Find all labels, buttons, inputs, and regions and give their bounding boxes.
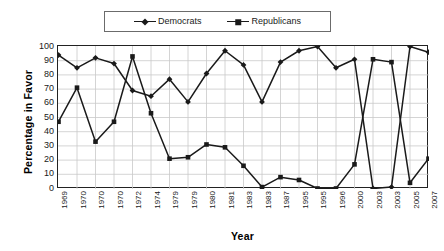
legend-item-democrats: Democrats: [134, 17, 202, 26]
x-tick-label: 2003: [394, 191, 402, 209]
y-axis-title: Percentage in Favor: [22, 47, 34, 197]
x-tick-label: 1970: [117, 191, 125, 209]
y-tick-label: 10: [44, 169, 54, 178]
x-tick-label: 1995: [302, 191, 310, 209]
x-tick-label: 1979: [172, 191, 180, 209]
chart-legend: Democrats Republicans: [104, 11, 331, 32]
legend-item-republicans: Republicans: [227, 17, 301, 26]
x-tick-label: 1980: [209, 191, 217, 209]
x-tick-label: 1995: [320, 191, 328, 209]
x-tick-label: 2003: [376, 191, 384, 209]
y-tick-label: 20: [44, 155, 54, 164]
x-tick-label: 1974: [154, 191, 162, 209]
diamond-marker-icon: [134, 21, 156, 22]
y-tick-label: 40: [44, 126, 54, 135]
y-tick-label: 100: [39, 41, 54, 50]
legend-label-republicans: Republicans: [251, 17, 301, 26]
x-tick-label: 1981: [228, 191, 236, 209]
line-chart: Democrats Republicans 010203040506070809…: [0, 0, 444, 251]
x-tick-label: 2000: [357, 191, 365, 209]
x-tick-label: 1970: [98, 191, 106, 209]
x-tick-label: 1969: [61, 191, 69, 209]
x-tick-label: 2005: [413, 191, 421, 209]
x-axis-tick-labels: 1969197019701970197219741979197919801981…: [57, 191, 428, 225]
y-tick-label: 80: [44, 69, 54, 78]
y-tick-label: 30: [44, 140, 54, 149]
x-tick-label: 1979: [191, 191, 199, 209]
y-tick-label: 0: [49, 183, 54, 192]
square-marker-icon: [227, 21, 249, 22]
x-tick-label: 1970: [80, 191, 88, 209]
plot-svg: [58, 46, 429, 189]
x-tick-label: 1983: [265, 191, 273, 209]
x-tick-label: 1987: [283, 191, 291, 209]
y-tick-label: 50: [44, 112, 54, 121]
plot-area: [57, 45, 428, 188]
x-tick-label: 1996: [339, 191, 347, 209]
y-tick-label: 90: [44, 55, 54, 64]
y-tick-label: 70: [44, 84, 54, 93]
y-tick-label: 60: [44, 98, 54, 107]
legend-label-democrats: Democrats: [158, 17, 202, 26]
x-tick-label: 1972: [135, 191, 143, 209]
x-tick-label: 1983: [246, 191, 254, 209]
x-axis-title: Year: [57, 230, 428, 242]
x-tick-label: 2007: [431, 191, 439, 209]
